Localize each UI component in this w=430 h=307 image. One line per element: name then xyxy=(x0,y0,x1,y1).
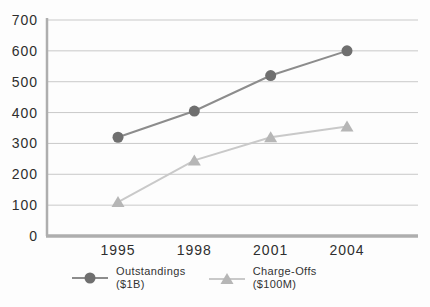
x-axis-tick-label: 1995 xyxy=(100,242,135,258)
charge-offs-legend-marker-icon xyxy=(208,270,246,286)
y-axis-tick-label: 600 xyxy=(12,43,38,59)
x-axis-tick-label: 2001 xyxy=(253,242,288,258)
outstandings-legend-label-line1: Outstandings xyxy=(116,265,186,278)
x-axis-tick-label: 2004 xyxy=(329,242,364,258)
data-point-outstandings-1b-1995 xyxy=(113,132,124,143)
y-axis-tick-label: 100 xyxy=(12,197,38,213)
outstandings-legend-label-line2: ($1B) xyxy=(116,278,186,291)
legend-item-charge-offs: Charge-Offs ($100M) xyxy=(208,265,317,291)
data-point-outstandings-1b-2004 xyxy=(342,45,353,56)
data-point-outstandings-1b-1998 xyxy=(189,106,200,117)
series-line-charge-offs-100m xyxy=(118,126,347,202)
y-axis-tick-label: 0 xyxy=(29,228,38,244)
chart-canvas: 01002003004005006007001995199820012004 xyxy=(0,0,430,307)
y-axis-tick-label: 200 xyxy=(12,166,38,182)
data-point-outstandings-1b-2001 xyxy=(265,70,276,81)
y-axis-tick-label: 500 xyxy=(12,74,38,90)
outstandings-legend-marker-icon xyxy=(71,270,109,286)
x-axis-tick-label: 1998 xyxy=(177,242,212,258)
y-axis-tick-label: 700 xyxy=(12,12,38,28)
charge-offs-legend-label-line2: ($100M) xyxy=(253,278,317,291)
legend-item-outstandings: Outstandings ($1B) xyxy=(71,265,186,291)
series-line-outstandings-1b xyxy=(118,51,347,137)
chart-legend: Outstandings ($1B) Charge-Offs ($100M) xyxy=(71,265,317,291)
y-axis-tick-label: 400 xyxy=(12,105,38,121)
outstandings-legend-circle-icon xyxy=(85,273,96,284)
charge-offs-legend-label-line1: Charge-Offs xyxy=(253,265,317,278)
data-point-charge-offs-100m-1995 xyxy=(112,196,125,207)
line-chart-figure: 01002003004005006007001995199820012004 O… xyxy=(0,0,430,307)
charge-offs-legend-label: Charge-Offs ($100M) xyxy=(253,265,317,291)
y-axis-tick-label: 300 xyxy=(12,135,38,151)
outstandings-legend-label: Outstandings ($1B) xyxy=(116,265,186,291)
data-point-charge-offs-100m-2004 xyxy=(341,120,354,131)
